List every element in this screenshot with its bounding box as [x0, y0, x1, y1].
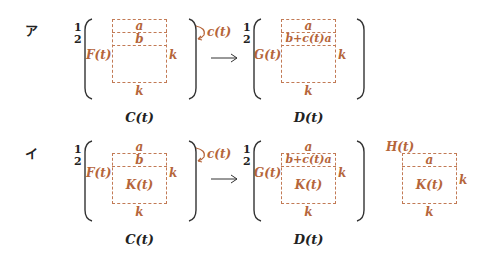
left-paren-icon [83, 140, 93, 222]
matrix-caption: D(t) [281, 110, 336, 125]
row-divider [281, 45, 336, 46]
right-arrow-icon [211, 174, 239, 184]
inner-block-K: K(t) [402, 178, 457, 192]
matrix-row-b-plus-ca: b+c(t)a [279, 32, 338, 45]
bottom-dimension: k [112, 205, 167, 219]
row-divider [281, 166, 336, 167]
bottom-dimension: k [281, 84, 336, 98]
matrix-side-label: G(t) [254, 166, 281, 180]
bottom-dimension: k [112, 84, 167, 98]
row-number-1: 1 [74, 144, 82, 155]
right-paren-icon [356, 18, 366, 100]
row-number-1: 1 [74, 22, 82, 33]
right-dimension: k [338, 48, 346, 62]
inner-block-K: K(t) [112, 178, 167, 192]
right-paren-icon [356, 140, 366, 222]
row-number-2: 2 [74, 156, 82, 167]
right-dimension: k [169, 48, 177, 62]
right-arrow-icon [211, 53, 239, 63]
matrix-row-a: a [402, 153, 457, 167]
matrix-caption: C(t) [112, 110, 167, 125]
matrix-row-a: a [112, 140, 167, 154]
row-number-1: 1 [243, 22, 251, 33]
matrix-row-b: b [112, 32, 167, 46]
matrix-row-b: b [112, 153, 167, 167]
right-dimension: k [169, 166, 177, 180]
inner-block-K: K(t) [281, 178, 336, 192]
row-label: イ [25, 143, 38, 162]
row-number-2: 2 [243, 34, 251, 45]
matrix-row-a: a [281, 140, 336, 154]
right-dimension: k [338, 166, 346, 180]
right-dimension: k [459, 173, 467, 187]
matrix-side-label: G(t) [254, 48, 281, 62]
matrix-caption: D(t) [281, 232, 336, 247]
matrix-caption: C(t) [112, 232, 167, 247]
bottom-dimension: k [281, 205, 336, 219]
row-number-2: 2 [243, 156, 251, 167]
matrix-side-label: F(t) [86, 48, 111, 62]
matrix-row-a: a [281, 19, 336, 33]
bottom-dimension: k [402, 205, 457, 219]
matrix-row-a: a [112, 19, 167, 33]
matrix-row-b-plus-ca: b+c(t)a [279, 153, 338, 166]
left-paren-icon [252, 140, 262, 222]
operation-label: c(t) [207, 25, 231, 39]
row-number-2: 2 [74, 34, 82, 45]
row-number-1: 1 [243, 144, 251, 155]
operation-label: c(t) [207, 147, 231, 161]
extra-matrix-label: H(t) [386, 140, 414, 154]
row-label: ア [25, 20, 38, 39]
matrix-side-label: F(t) [86, 166, 111, 180]
